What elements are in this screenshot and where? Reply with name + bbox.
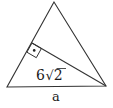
altitude-label: 6√2 xyxy=(36,67,63,83)
right-angle-dot xyxy=(33,49,36,52)
triangle-diagram: 6√2 a xyxy=(0,0,113,108)
base-label: a xyxy=(52,89,60,104)
